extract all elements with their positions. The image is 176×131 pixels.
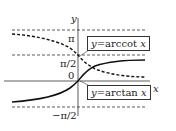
arctan-var: x	[141, 87, 147, 98]
tick-half-pi: π/2	[60, 59, 76, 69]
y-axis-label: y	[71, 14, 77, 24]
arctan-label-box: y=arctan x	[87, 85, 151, 100]
arccot-var: x	[140, 38, 146, 49]
arctan-eq: =	[97, 87, 105, 98]
arccot-eq: =	[97, 38, 105, 49]
arccot-label-box: y=arccot x	[87, 36, 150, 51]
tick-pi: π	[68, 34, 75, 44]
arccot-func: arccot	[105, 38, 137, 49]
x-axis-label: x	[153, 84, 159, 94]
arctan-func: arctan	[105, 87, 138, 98]
tick-neg-half-pi: −π/2	[52, 111, 77, 121]
function-graph: y x 0 π π/2 −π/2 y=arccot x y=arctan x	[0, 0, 176, 131]
graph-canvas	[0, 0, 176, 131]
origin-label: 0	[68, 71, 74, 81]
